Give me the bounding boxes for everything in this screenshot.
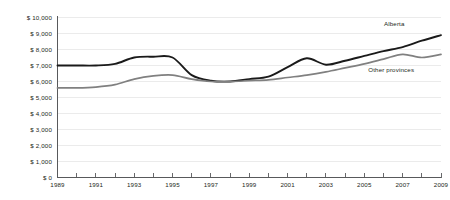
ytick-labels-group: $ 0$ 1,000$ 2,000$ 3,000$ 4,000$ 5,000$ … <box>27 14 53 181</box>
ytick-label: $ 6,000 <box>30 78 52 85</box>
xtick-labels-group: 1989199119931995199719992001200320052007… <box>50 181 448 188</box>
xtick-marks-group <box>58 173 442 178</box>
axes-group <box>58 16 442 178</box>
chart-canvas: $ 0$ 1,000$ 2,000$ 3,000$ 4,000$ 5,000$ … <box>0 0 450 200</box>
xtick-label: 1999 <box>242 181 257 188</box>
ytick-label: $ 10,000 <box>27 14 53 21</box>
line-chart: $ 0$ 1,000$ 2,000$ 3,000$ 4,000$ 5,000$ … <box>0 0 450 200</box>
gridlines-group <box>58 18 442 162</box>
ytick-label: $ 1,000 <box>30 158 52 165</box>
xtick-label: 1989 <box>50 181 65 188</box>
ytick-label: $ 8,000 <box>30 46 52 53</box>
series-label-alberta: Alberta <box>384 20 405 27</box>
xtick-label: 2003 <box>319 181 334 188</box>
xtick-label: 1997 <box>204 181 219 188</box>
xtick-label: 2005 <box>357 181 372 188</box>
xtick-label: 1993 <box>127 181 142 188</box>
ytick-label: $ 9,000 <box>30 30 52 37</box>
ytick-label: $ 7,000 <box>30 62 52 69</box>
xtick-label: 2009 <box>434 181 449 188</box>
ytick-label: $ 3,000 <box>30 126 52 133</box>
series-group <box>58 35 442 88</box>
ytick-label: $ 5,000 <box>30 94 52 101</box>
ytick-label: $ 2,000 <box>30 142 52 149</box>
xtick-label: 2007 <box>395 181 410 188</box>
series-label-other-provinces: Other provinces <box>368 66 414 73</box>
xtick-label: 1995 <box>165 181 180 188</box>
xtick-label: 2001 <box>280 181 295 188</box>
ytick-label: $ 0 <box>43 174 52 181</box>
ytick-label: $ 4,000 <box>30 110 52 117</box>
xtick-label: 1991 <box>89 181 104 188</box>
